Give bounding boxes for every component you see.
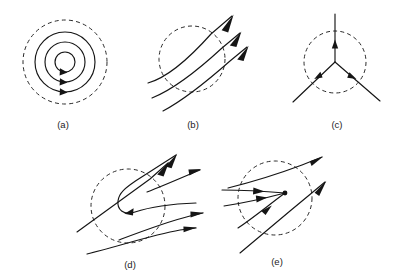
panel-c-arrow-up [332, 39, 338, 48]
panel-e-arrow-crossing [315, 181, 327, 196]
figure-root: (a) (b) [0, 0, 413, 277]
panel-d-arrow-bottom [183, 226, 197, 232]
panel-d-arrow-mid-right [190, 212, 204, 218]
panel-b-caption: (b) [187, 119, 199, 130]
panel-e-arrow-top [310, 156, 323, 166]
panel-c: (c) [293, 14, 380, 130]
panel-b-streamline-3 [163, 47, 247, 111]
panel-e-arrow-inflow-upper [253, 188, 265, 195]
panel-c-caption: (c) [331, 119, 342, 130]
cropped-header-text [6, 0, 406, 7]
panel-d-caption: (d) [124, 259, 136, 270]
panel-a: (a) [23, 20, 107, 130]
panel-e-arrow-inflow-middle [256, 196, 268, 203]
panel-e-caption: (e) [271, 256, 283, 267]
panel-d-arrow-inner-upper [188, 169, 201, 176]
panel-e-streamline-top [228, 157, 322, 188]
streamline-topology-figure: (a) (b) [0, 0, 413, 277]
panel-a-caption: (a) [57, 119, 69, 130]
panel-b: (b) [148, 15, 249, 130]
panel-d-boundary-circle [91, 169, 165, 243]
panel-c-ray-lower-right [335, 62, 380, 101]
panel-d-streamline-mid-right [119, 213, 203, 240]
panel-d-arrow-hairpin-bend [124, 208, 133, 215]
panel-b-boundary-circle [159, 26, 225, 92]
panel-a-orbit-inner [55, 52, 75, 72]
panel-d-streamline-outer-upper [77, 163, 168, 232]
panel-b-streamline-2 [152, 33, 240, 98]
panel-d: (d) [77, 154, 204, 270]
panel-b-arrow-2 [230, 32, 242, 47]
panel-d-hairpin-streamline [118, 155, 196, 213]
panel-e-node-point [283, 191, 288, 196]
panel-e: (e) [222, 156, 326, 267]
panel-a-orbit-middle [45, 42, 85, 82]
panel-c-ray-lower-left [293, 62, 335, 102]
panel-c-arrow-lower-left [314, 72, 322, 79]
